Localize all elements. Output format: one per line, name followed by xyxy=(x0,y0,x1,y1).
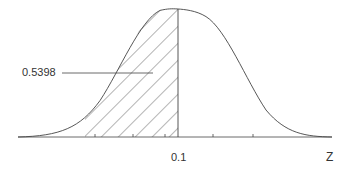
shaded-area-label: 0.5398 xyxy=(22,67,56,78)
z-axis-label: Z xyxy=(326,151,333,163)
shaded-area xyxy=(85,0,178,137)
normal-curve-diagram xyxy=(0,0,350,173)
z-value-label: 0.1 xyxy=(171,152,186,163)
